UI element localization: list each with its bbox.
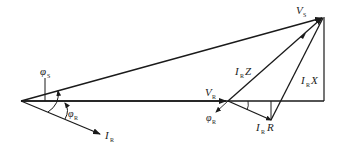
svg-text:R: R: [306, 82, 310, 88]
irr-phasor: [228, 101, 271, 120]
svg-text:R: R: [74, 115, 78, 121]
irx-label: I R X: [300, 74, 319, 88]
vs-phasor: [21, 18, 322, 101]
phi-s-label: φ S: [40, 65, 50, 79]
irr-label: I R R: [255, 121, 274, 135]
vs-label: V S: [296, 4, 306, 18]
vr-label: V R: [205, 86, 216, 100]
ir-phasor: [21, 101, 100, 134]
phasor-diagram: V S V R I R I R Z I R X I R R φ S φ R φ …: [0, 0, 341, 149]
svg-text:R: R: [212, 94, 216, 100]
svg-text:R: R: [212, 119, 216, 125]
svg-text:φ: φ: [40, 65, 46, 77]
phi-r-arc-right: [247, 101, 248, 110]
ir-label: I R: [104, 129, 114, 143]
svg-text:R: R: [110, 137, 114, 143]
svg-text:R: R: [240, 73, 244, 79]
svg-text:R: R: [261, 129, 265, 135]
svg-text:R: R: [266, 121, 274, 133]
irx-phasor: [271, 18, 323, 120]
svg-text:S: S: [303, 12, 306, 18]
phi-r-label-left: φ R: [68, 108, 78, 121]
svg-text:Z: Z: [245, 65, 252, 77]
svg-text:X: X: [310, 74, 319, 86]
phi-r-label-right: φ R: [206, 112, 216, 125]
svg-text:S: S: [47, 73, 50, 79]
irz-label: I R Z: [234, 65, 252, 79]
phi-r-pointer: [216, 101, 228, 112]
